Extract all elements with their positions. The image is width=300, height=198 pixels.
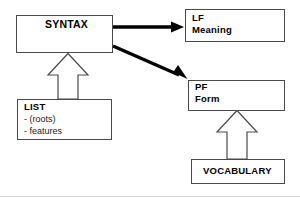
page-bottom-rule (0, 196, 300, 197)
edge-list-to-syntax (48, 54, 88, 100)
node-list-item-features: - features (24, 126, 62, 136)
node-pf-label: PF (195, 81, 208, 92)
node-list-label: LIST (24, 101, 45, 112)
edge-syntax-to-pf (113, 46, 188, 79)
node-lf-sublabel: Meaning (192, 24, 232, 35)
node-lf-label: LF (192, 12, 204, 23)
node-pf-sublabel: Form (195, 93, 220, 104)
edge-vocabulary-to-pf (217, 111, 257, 160)
diagram-canvas: SYNTAX LF Meaning PF Form LIST - (roots)… (0, 0, 300, 198)
node-list-item-roots: - (roots) (24, 114, 56, 124)
node-syntax-label: SYNTAX (45, 18, 88, 30)
edge-syntax-to-lf (113, 22, 184, 33)
node-vocabulary-label: VOCABULARY (203, 165, 272, 176)
